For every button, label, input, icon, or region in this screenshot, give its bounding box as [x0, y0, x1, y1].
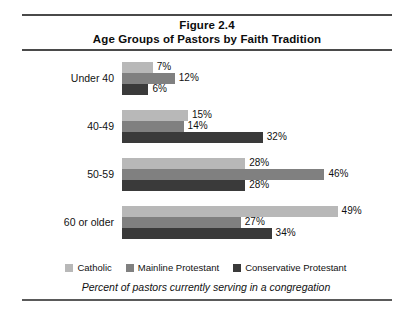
- legend-label: Catholic: [77, 262, 111, 273]
- figure-container: Figure 2.4 Age Groups of Pastors by Fait…: [0, 0, 412, 315]
- legend-item: Mainline Protestant: [126, 262, 219, 273]
- bar-value-label: 27%: [245, 216, 265, 227]
- bar-row: 28%: [122, 180, 402, 191]
- bar-row: 7%: [122, 62, 402, 73]
- legend-swatch-icon: [233, 264, 241, 272]
- bar-row: 27%: [122, 217, 402, 228]
- bar-row: 32%: [122, 132, 402, 143]
- bar-segment: [122, 121, 184, 132]
- bar-segment: [122, 217, 241, 228]
- bar-value-label: 7%: [157, 61, 171, 72]
- bar-segment: [122, 180, 245, 191]
- bar-group: 50-5928%46%28%: [0, 158, 412, 191]
- bar-row: 34%: [122, 228, 402, 239]
- bar-group: 60 or older49%27%34%: [0, 206, 412, 239]
- bar-segment: [122, 84, 148, 95]
- bar-chart-plot: Under 407%12%6%40-4915%14%32%50-5928%46%…: [0, 58, 412, 253]
- chart-legend: CatholicMainline ProtestantConservative …: [0, 262, 412, 273]
- legend-label: Conservative Protestant: [245, 262, 346, 273]
- bottom-rule: [22, 299, 392, 301]
- category-label: 60 or older: [14, 216, 114, 228]
- legend-item: Catholic: [65, 262, 111, 273]
- bar-row: 15%: [122, 110, 402, 121]
- category-label: 50-59: [14, 168, 114, 180]
- legend-label: Mainline Protestant: [138, 262, 219, 273]
- bar-value-label: 14%: [188, 120, 208, 131]
- bar-segment: [122, 169, 324, 180]
- legend-swatch-icon: [126, 264, 134, 272]
- bar-value-label: 6%: [152, 83, 166, 94]
- bar-value-label: 49%: [342, 205, 362, 216]
- figure-title-block: Figure 2.4 Age Groups of Pastors by Fait…: [22, 18, 392, 46]
- bar-segment: [122, 132, 263, 143]
- bar-segment: [122, 158, 245, 169]
- bar-value-label: 46%: [328, 168, 348, 179]
- legend-item: Conservative Protestant: [233, 262, 346, 273]
- bar-segment: [122, 62, 153, 73]
- bar-value-label: 28%: [249, 179, 269, 190]
- bar-value-label: 12%: [179, 72, 199, 83]
- bar-value-label: 34%: [276, 227, 296, 238]
- bar-row: 28%: [122, 158, 402, 169]
- title-separator-rule: [22, 49, 392, 51]
- bar-value-label: 15%: [192, 109, 212, 120]
- bar-group: Under 407%12%6%: [0, 62, 412, 95]
- figure-title: Age Groups of Pastors by Faith Tradition: [22, 32, 392, 46]
- chart-footnote: Percent of pastors currently serving in …: [0, 281, 412, 293]
- figure-number: Figure 2.4: [22, 18, 392, 32]
- top-rule: [22, 14, 392, 16]
- category-label: Under 40: [14, 72, 114, 84]
- bar-segment: [122, 228, 272, 239]
- bar-segment: [122, 206, 338, 217]
- bar-row: 6%: [122, 84, 402, 95]
- bar-segment: [122, 110, 188, 121]
- bar-value-label: 32%: [267, 131, 287, 142]
- legend-swatch-icon: [65, 264, 73, 272]
- bar-value-label: 28%: [249, 157, 269, 168]
- bar-row: 14%: [122, 121, 402, 132]
- bar-group: 40-4915%14%32%: [0, 110, 412, 143]
- category-label: 40-49: [14, 120, 114, 132]
